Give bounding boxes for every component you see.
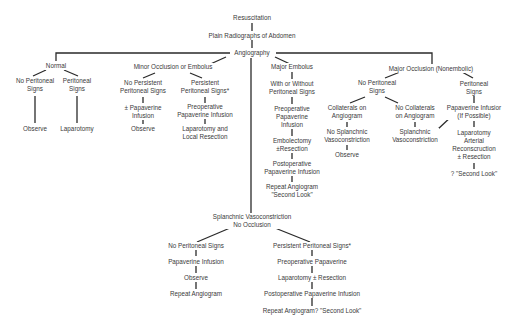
- node-text: Persistent: [181, 79, 229, 87]
- node-text: Peritoneal: [460, 80, 488, 88]
- node-text: Papaverine Infusior: [447, 104, 501, 112]
- node-text: (If Possible): [447, 112, 501, 120]
- node-text: Observe: [23, 125, 47, 133]
- node-text: Laparotomy: [452, 129, 495, 137]
- node-vaso-preop: Preoperative Papaverine: [276, 258, 347, 266]
- node-text: Infusion: [124, 112, 161, 120]
- node-text: Splanchnic Vasoconstriction: [213, 213, 291, 221]
- node-plain-radiographs: Plain Radiographs of Abdomen: [208, 32, 297, 40]
- node-text: Signs: [63, 85, 91, 93]
- node-text: Postoperative: [264, 160, 320, 168]
- node-vaso-postop: Postoperative Papaverine Infusion: [263, 290, 361, 298]
- node-text: No Peritoneal: [358, 79, 396, 87]
- node-text: Vasoconstriction: [324, 136, 370, 144]
- node-normal: Normal: [45, 62, 67, 70]
- node-occlusion-laparotomy: LaparotomyArterialReconscruction± Resect…: [451, 129, 496, 161]
- node-minor-persistent: PersistentPeritoneal Signs*: [180, 79, 230, 95]
- node-normal-observe: Observe: [22, 125, 48, 133]
- node-vaso-repeat-second-look: Repeat Angiogram? "Second Look": [262, 307, 363, 315]
- node-embolus-preop: PreoperativePapaverineInfusion: [273, 105, 311, 129]
- node-text: Repeat Angiogram? "Second Look": [263, 307, 362, 315]
- node-text: Laparotomy ± Resection: [278, 274, 346, 282]
- node-minor-no-persistent: No PersistentPeritoneal Signs: [119, 79, 167, 95]
- node-text: Resuscitation: [233, 14, 271, 22]
- node-text: No Splanchnic: [324, 128, 370, 136]
- node-text: Signs: [16, 85, 54, 93]
- node-text: Peritoneal Signs*: [181, 87, 229, 95]
- node-embolectomy: Embolectomy±Resection: [272, 137, 312, 153]
- node-text: Persistent Peritoneal Signs*: [273, 242, 351, 250]
- node-text: Major Embolus: [271, 63, 313, 71]
- node-text: Papaverine: [274, 113, 310, 121]
- node-text: Normal: [46, 62, 66, 70]
- node-text: Preoperative: [274, 105, 310, 113]
- node-text: ± Papaverine: [124, 104, 161, 112]
- node-text: Signs: [358, 87, 396, 95]
- node-normal-no-peritoneal: No PeritonealSigns: [15, 77, 55, 93]
- node-minor-preop: PreoperativePapaverine Infusion: [176, 103, 234, 119]
- node-text: Angiography: [234, 49, 269, 57]
- node-text: No Persistent: [120, 79, 166, 87]
- node-text: No Collaterals: [395, 104, 435, 112]
- node-minor-papaverine: ± PapaverineInfusion: [123, 104, 162, 120]
- node-text: Laparotomy and: [182, 125, 228, 133]
- node-text: Preoperative: [177, 103, 233, 111]
- node-text: Signs: [460, 88, 488, 96]
- node-text: Repeat Angiogram: [266, 183, 318, 191]
- node-text: Laparotomy: [60, 125, 93, 133]
- node-text: Postoperative Papaverine Infusion: [264, 290, 360, 298]
- node-text: No Peritoneal: [16, 77, 54, 85]
- node-text: Angiogram: [328, 112, 367, 120]
- node-occlusion-peritoneal: PeritonealSigns: [459, 80, 489, 96]
- node-normal-peritoneal: PeritonealSigns: [62, 77, 92, 93]
- node-text: Observe: [335, 151, 359, 159]
- node-text: ? "Second Look": [451, 170, 497, 178]
- node-collaterals: Collaterals onAngiogram: [327, 104, 368, 120]
- node-text: Local Resection: [182, 133, 228, 141]
- node-embolus-with-without: With or WithoutPeritoneal Signs: [268, 80, 316, 96]
- node-text: Repeat Angiogram: [170, 290, 222, 298]
- node-occlusion-observe: Observe: [334, 151, 360, 159]
- node-resuscitation: Resuscitation: [232, 14, 272, 22]
- node-text: Peritoneal: [63, 77, 91, 85]
- node-vaso-laparotomy: Laparotomy ± Resection: [277, 274, 347, 282]
- node-text: on Angiogram: [395, 112, 435, 120]
- node-no-splanchnic: No SplanchnicVasoconstriction: [323, 128, 371, 144]
- node-no-collaterals: No Collateralson Angiogram: [394, 104, 436, 120]
- node-vaso-no-peritoneal: No Peritoneal Signs: [167, 242, 225, 250]
- node-text: Embolectomy: [273, 137, 311, 145]
- node-text: Arterial: [452, 137, 495, 145]
- node-text: ±Resection: [273, 145, 311, 153]
- node-vaso-repeat: Repeat Angiogram: [169, 290, 223, 298]
- node-text: Preoperative Papaverine: [277, 258, 346, 266]
- node-minor-observe: Observe: [130, 125, 156, 133]
- node-occlusion-second-look: ? "Second Look": [450, 170, 498, 178]
- node-splanchnic-vasoconstriction: SplanchnicVasoconstriction: [391, 128, 439, 144]
- node-angiography: Angiography: [233, 49, 270, 57]
- node-text: Minor Occlusion or Embolus: [134, 63, 213, 71]
- node-occlusion-papaverine: Papaverine Infusior(If Possible): [446, 104, 502, 120]
- node-text: Vasoconstriction: [392, 136, 438, 144]
- node-text: Infusion: [274, 121, 310, 129]
- node-vasoconstriction-no-occlusion: Splanchnic VasoconstrictionNo Occlusion: [212, 213, 292, 229]
- node-occlusion-no-peritoneal: No PeritonealSigns: [357, 79, 397, 95]
- node-embolus-postop: PostoperativePapaverine Infusion: [263, 160, 321, 176]
- node-text: Reconscruction: [452, 145, 495, 153]
- node-vaso-observe: Observe: [183, 274, 209, 282]
- node-embolus-repeat: Repeat Angiogram"Second Look": [265, 183, 319, 199]
- node-text: With or Without: [269, 80, 315, 88]
- node-text: Observe: [184, 274, 208, 282]
- node-text: Papaverine Infusion: [177, 111, 233, 119]
- node-text: Papaverine Infusion: [264, 168, 320, 176]
- node-minor-occlusion: Minor Occlusion or Embolus: [133, 63, 214, 71]
- node-text: ± Resection: [452, 153, 495, 161]
- node-text: Papaverine Infusion: [168, 258, 224, 266]
- node-major-occlusion: Major Occlusion (Nonembolic): [388, 65, 474, 73]
- node-text: No Occlusion: [213, 221, 291, 229]
- node-text: Peritoneal Signs: [269, 88, 315, 96]
- node-vaso-papaverine: Papaverine Infusion: [167, 258, 225, 266]
- node-text: Splanchnic: [392, 128, 438, 136]
- node-text: "Second Look": [266, 191, 318, 199]
- node-text: Major Occlusion (Nonembolic): [389, 65, 473, 73]
- node-major-embolus: Major Embolus: [270, 63, 314, 71]
